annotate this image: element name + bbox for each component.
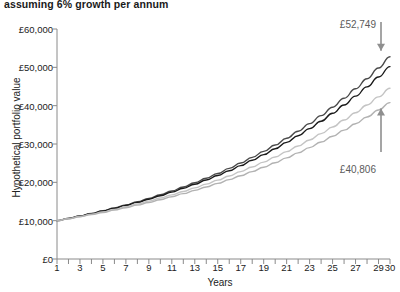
annotation-arrows [377, 22, 385, 152]
axis-lines [57, 29, 390, 259]
series-line-net-charges-b [57, 88, 390, 220]
axis-tickmarks [53, 29, 390, 264]
annotation-label-bottom-value: £40,806 [340, 164, 376, 175]
series-line-net-charges-a [57, 67, 390, 221]
series-line-gross-6pct [57, 57, 390, 221]
series-lines [57, 57, 390, 221]
series-line-net-charges-c [57, 103, 390, 221]
plot-area [0, 0, 400, 292]
annotation-arrow-head [377, 44, 385, 51]
chart-container: assuming 6% growth per annum Hypothetica… [0, 0, 400, 292]
annotation-label-top-value: £52,749 [340, 19, 376, 30]
